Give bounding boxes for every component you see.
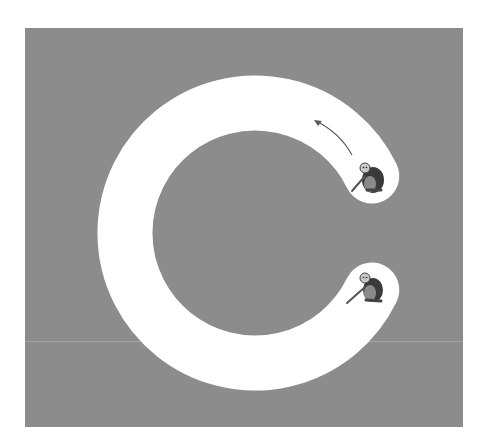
c-track-diagram xyxy=(0,0,490,446)
c-shaped-track xyxy=(125,103,372,363)
